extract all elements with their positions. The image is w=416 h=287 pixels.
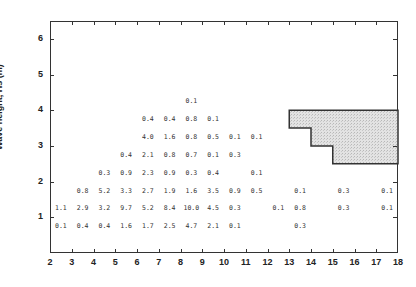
plot-overlay: [0, 0, 416, 287]
data-cell-value: 0.1: [294, 187, 306, 195]
y-tick-label: 2: [38, 176, 43, 186]
x-tick-mark: [246, 249, 247, 253]
data-cell-value: 0.3: [338, 204, 350, 212]
data-cell-value: 0.1: [381, 187, 393, 195]
x-tick-label: 12: [262, 257, 272, 267]
data-cell-value: 2.9: [77, 204, 89, 212]
x-tick-label: 4: [91, 257, 96, 267]
x-tick-mark: [268, 249, 269, 253]
x-tick-mark: [311, 21, 312, 25]
x-tick-label: 16: [349, 257, 359, 267]
x-tick-label: 3: [69, 257, 74, 267]
y-tick-label: 5: [38, 69, 43, 79]
x-tick-mark: [72, 21, 73, 25]
data-cell-value: 0.7: [186, 151, 198, 159]
data-cell-value: 0.3: [338, 187, 350, 195]
x-tick-mark: [202, 249, 203, 253]
x-tick-mark: [268, 21, 269, 25]
data-cell-value: 0.4: [142, 115, 154, 123]
data-cell-value: 9.7: [120, 204, 132, 212]
x-tick-mark: [355, 249, 356, 253]
y-axis-label: Wave height, Hs (m): [0, 64, 4, 150]
y-tick-mark: [393, 182, 397, 183]
x-tick-mark: [224, 249, 225, 253]
data-cell-value: 4.7: [186, 222, 198, 230]
data-cell-value: 3.2: [99, 204, 111, 212]
x-tick-mark: [376, 21, 377, 25]
y-tick-mark: [50, 75, 54, 76]
data-cell-value: 0.1: [207, 151, 219, 159]
x-tick-mark: [137, 249, 138, 253]
x-tick-mark: [289, 249, 290, 253]
data-cell-value: 0.5: [251, 187, 263, 195]
data-cell-value: 0.3: [99, 169, 111, 177]
x-tick-label: 15: [328, 257, 338, 267]
data-cell-value: 0.4: [207, 169, 219, 177]
data-cell-value: 1.7: [142, 222, 154, 230]
data-cell-value: 0.1: [229, 222, 241, 230]
x-tick-mark: [94, 21, 95, 25]
data-cell-value: 0.9: [229, 187, 241, 195]
x-tick-mark: [159, 21, 160, 25]
data-cell-value: 0.8: [294, 204, 306, 212]
x-tick-label: 10: [219, 257, 229, 267]
data-cell-value: 2.7: [142, 187, 154, 195]
x-tick-mark: [115, 21, 116, 25]
data-cell-value: 1.9: [164, 187, 176, 195]
data-cell-value: 0.3: [229, 151, 241, 159]
x-tick-label: 17: [371, 257, 381, 267]
y-tick-mark: [393, 146, 397, 147]
y-tick-mark: [50, 146, 54, 147]
data-cell-value: 1.6: [186, 187, 198, 195]
x-tick-mark: [72, 249, 73, 253]
data-cell-value: 1.1: [55, 204, 67, 212]
x-tick-label: 7: [156, 257, 161, 267]
x-tick-label: 6: [134, 257, 139, 267]
x-tick-mark: [94, 249, 95, 253]
x-tick-mark: [289, 21, 290, 25]
data-cell-value: 0.1: [207, 115, 219, 123]
data-cell-value: 0.9: [120, 169, 132, 177]
x-tick-label: 2: [47, 257, 52, 267]
data-cell-value: 0.1: [381, 204, 393, 212]
y-tick-mark: [393, 75, 397, 76]
data-cell-value: 0.1: [273, 204, 285, 212]
shaded-region: [289, 110, 398, 164]
x-tick-label: 5: [113, 257, 118, 267]
x-tick-mark: [137, 21, 138, 25]
data-cell-value: 0.3: [229, 204, 241, 212]
data-cell-value: 0.5: [207, 133, 219, 141]
x-tick-label: 8: [178, 257, 183, 267]
data-cell-value: 1.6: [120, 222, 132, 230]
x-tick-mark: [181, 249, 182, 253]
data-cell-value: 2.1: [207, 222, 219, 230]
data-cell-value: 0.8: [77, 187, 89, 195]
data-cell-value: 2.3: [142, 169, 154, 177]
y-tick-label: 6: [38, 33, 43, 43]
data-cell-value: 0.4: [120, 151, 132, 159]
x-tick-mark: [355, 21, 356, 25]
x-tick-label: 18: [393, 257, 403, 267]
data-cell-value: 0.4: [164, 115, 176, 123]
x-tick-label: 14: [306, 257, 316, 267]
data-cell-value: 0.1: [186, 97, 198, 105]
data-cell-value: 2.1: [142, 151, 154, 159]
data-cell-value: 10.0: [184, 204, 200, 212]
x-tick-mark: [181, 21, 182, 25]
data-cell-value: 0.8: [186, 133, 198, 141]
x-tick-mark: [159, 249, 160, 253]
x-tick-label: 13: [284, 257, 294, 267]
data-cell-value: 5.2: [142, 204, 154, 212]
data-cell-value: 0.8: [186, 115, 198, 123]
x-tick-label: 11: [241, 257, 251, 267]
data-cell-value: 2.5: [164, 222, 176, 230]
x-tick-label: 9: [200, 257, 205, 267]
data-cell-value: 4.0: [142, 133, 154, 141]
y-tick-mark: [50, 39, 54, 40]
y-tick-mark: [393, 110, 397, 111]
data-cell-value: 0.1: [229, 133, 241, 141]
x-tick-mark: [311, 249, 312, 253]
data-cell-value: 4.5: [207, 204, 219, 212]
data-cell-value: 0.3: [186, 169, 198, 177]
data-cell-value: 0.1: [251, 133, 263, 141]
